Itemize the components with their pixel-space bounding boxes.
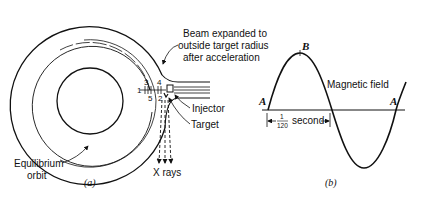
fraction-numerator: 1: [280, 113, 284, 120]
figure-b-magnetic-field-plot: A B A Magnetic field 1 120 second (b): [258, 40, 406, 189]
orbit-number-3: 3: [144, 78, 149, 87]
injector-label: Injector: [192, 103, 225, 114]
point-a-right-label: A: [389, 95, 397, 107]
point-b-label: B: [301, 40, 309, 52]
orbit-position-ticks: [140, 86, 166, 94]
equilibrium-orbit: [32, 46, 152, 166]
beam-expanded-label-line2: outside target radius: [178, 40, 269, 51]
injector-box: [167, 85, 173, 92]
target-element: [164, 93, 168, 97]
equilibrium-orbit-label-line2: orbit: [27, 170, 47, 181]
point-a-left-label: A: [258, 95, 266, 107]
magnetic-field-label: Magnetic field: [327, 79, 389, 90]
inner-chamber-wall: [57, 68, 123, 134]
figure-a-betatron-diagram: 1 2 3 4 5 Beam expanded to outside targe…: [10, 27, 268, 189]
second-label: second: [292, 115, 324, 126]
figure-a-caption: (a): [84, 177, 96, 189]
expanding-orbit-arc: [60, 40, 156, 168]
injector-label-leader: [175, 95, 190, 108]
target-label: Target: [191, 119, 219, 130]
fraction-denominator: 120: [277, 122, 288, 129]
beam-label-leader: [163, 45, 178, 64]
xray-arrows: [159, 100, 171, 163]
target-label-leader: [169, 98, 190, 124]
figure-b-caption: (b): [325, 177, 337, 189]
beam-expanded-label-line3: after acceleration: [183, 52, 260, 63]
xrays-label: X rays: [153, 167, 181, 178]
beam-expanded-label-line1: Beam expanded to: [183, 28, 267, 39]
orbit-number-4: 4: [157, 78, 162, 87]
orbit-number-5: 5: [148, 94, 153, 103]
equilibrium-orbit-label-line1: Equilibrium: [14, 158, 63, 169]
orbit-number-1: 1: [137, 86, 142, 95]
injector-tube-upper: [162, 75, 210, 82]
